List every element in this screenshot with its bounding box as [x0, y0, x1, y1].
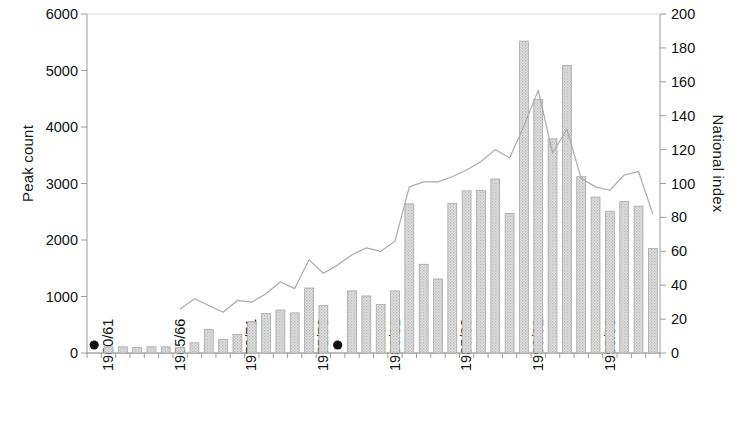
bar: [204, 329, 213, 353]
missing-data-marker: [333, 340, 342, 349]
bar: [233, 334, 242, 353]
bar: [348, 291, 357, 353]
bar: [477, 190, 486, 353]
bar: [548, 139, 557, 353]
bar: [605, 211, 614, 353]
bar: [276, 310, 285, 353]
bar: [262, 313, 271, 353]
bar: [190, 343, 199, 353]
bar: [634, 206, 643, 353]
bar: [405, 204, 414, 353]
chart-container: Peak count National index 01000200030004…: [0, 0, 734, 435]
bar: [147, 347, 156, 353]
bar: [161, 347, 170, 353]
bar: [648, 248, 657, 353]
bar: [505, 213, 514, 353]
bar: [620, 202, 629, 353]
bar: [591, 197, 600, 353]
bar: [391, 291, 400, 353]
bar: [534, 99, 543, 353]
bar: [362, 296, 371, 353]
bar: [247, 322, 256, 353]
bar: [133, 347, 142, 353]
bar: [219, 339, 228, 353]
bar: [419, 264, 428, 353]
bar: [434, 279, 443, 353]
chart-plot-area: [0, 0, 734, 435]
bar: [290, 313, 299, 353]
bar: [462, 191, 471, 353]
bar: [104, 347, 113, 353]
bar-series-group: [104, 41, 657, 353]
bar: [577, 177, 586, 353]
bar: [176, 347, 185, 353]
bar: [448, 203, 457, 353]
bar: [376, 304, 385, 353]
bar: [305, 288, 314, 353]
missing-data-marker: [90, 340, 99, 349]
bar: [319, 306, 328, 353]
bar: [118, 347, 127, 353]
bar: [491, 179, 500, 353]
bar: [519, 41, 528, 353]
bar: [562, 65, 571, 353]
